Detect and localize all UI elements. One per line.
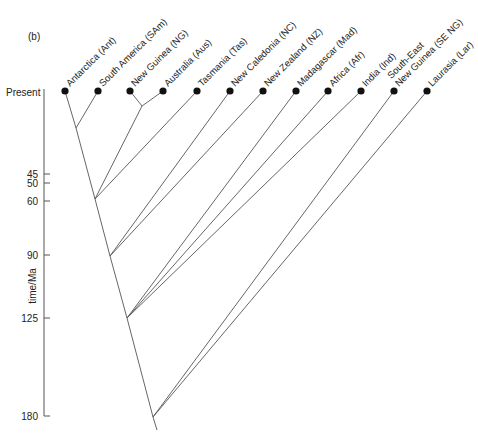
time-axis: Present 45506090125180 time/Ma	[6, 87, 50, 422]
branch-NZ	[110, 91, 263, 256]
taxon-label: New Guinea (NG)	[129, 27, 190, 88]
tip-dot-Afr	[324, 87, 331, 94]
axis-present-label: Present	[6, 87, 41, 98]
taxon-label: New Zealand (NZ)	[262, 26, 325, 89]
axis-tick-label: 180	[21, 411, 38, 422]
tip-label-Mad: Madagascar (Mad)	[295, 24, 359, 88]
tip-dot-NG	[126, 87, 133, 94]
axis-tick-label: 125	[21, 313, 38, 324]
area-cladogram: (b) Present 45506090125180 time/Ma Antar…	[0, 0, 478, 439]
branch-NC	[110, 91, 230, 256]
tip-label-NG: New Guinea (NG)	[129, 27, 190, 88]
branch-n_ant_sam	[76, 128, 95, 199]
axis-title: time/Ma	[27, 268, 38, 304]
panel-label: (b)	[28, 31, 40, 42]
tip-dot-Mad	[292, 87, 299, 94]
tree-tips: Antarctica (Ant)South America (SAm)New G…	[61, 9, 475, 95]
axis-tick-label: 90	[27, 250, 39, 261]
tip-dot-Tas	[193, 87, 200, 94]
tree-branches	[65, 91, 427, 430]
tip-label-NZ: New Zealand (NZ)	[262, 26, 325, 89]
branch-Tas	[95, 91, 197, 199]
tip-dot-NC	[226, 87, 233, 94]
tip-dot-NZ	[259, 87, 266, 94]
branch-Ind	[127, 91, 361, 318]
tip-dot-Aus	[159, 87, 166, 94]
branch-n_ng_aus	[95, 106, 142, 199]
tip-label-SENG: South-EastNew Guinea (SE NG)	[385, 9, 465, 89]
branch-n_90	[110, 256, 127, 318]
branch-n_125	[127, 318, 153, 417]
tip-dot-Ant	[61, 87, 68, 94]
branch-n_60	[95, 199, 110, 256]
tip-dot-SENG	[390, 87, 397, 94]
axis-tick-label: 50	[27, 178, 39, 189]
axis-tick-label: 60	[27, 196, 39, 207]
branch-SAm	[76, 91, 98, 128]
branch-SENG	[153, 91, 394, 417]
tip-dot-Lar	[423, 87, 430, 94]
branch-Ant	[65, 91, 76, 128]
tip-dot-Ind	[357, 87, 364, 94]
branch-Mad	[127, 91, 296, 318]
root-stem	[153, 417, 157, 430]
branch-Aus	[142, 91, 163, 106]
taxon-label: Madagascar (Mad)	[295, 24, 359, 88]
tip-dot-SAm	[94, 87, 101, 94]
